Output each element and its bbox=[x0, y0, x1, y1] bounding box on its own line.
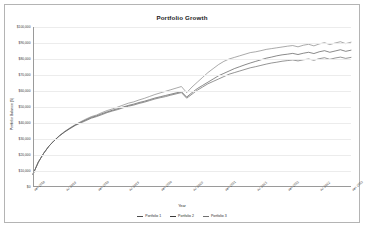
legend-item[interactable]: Portfolio 1 bbox=[137, 214, 161, 218]
chart-legend: Portfolio 1Portfolio 2Portfolio 3 bbox=[5, 214, 359, 218]
legend-item[interactable]: Portfolio 3 bbox=[203, 214, 227, 218]
gridline bbox=[33, 171, 351, 172]
legend-item[interactable]: Portfolio 2 bbox=[170, 214, 194, 218]
chart-frame: Portfolio Growth Portfolio Balance ($) $… bbox=[4, 4, 360, 223]
x-axis-line bbox=[33, 186, 351, 187]
y-tick-label: $0 bbox=[27, 185, 31, 189]
gridline bbox=[33, 107, 351, 108]
x-tick-label: Jan 2023 bbox=[351, 180, 364, 192]
y-tick-label: $60,000 bbox=[19, 89, 31, 93]
gridline bbox=[33, 123, 351, 124]
y-axis-line bbox=[33, 27, 34, 187]
y-tick-label: $40,000 bbox=[19, 121, 31, 125]
plot-area: $0$10,000$20,000$30,000$40,000$50,000$60… bbox=[33, 27, 351, 187]
gridline bbox=[33, 75, 351, 76]
gridline bbox=[33, 27, 351, 28]
y-tick-label: $30,000 bbox=[19, 137, 31, 141]
gridlines bbox=[33, 27, 351, 187]
legend-label: Portfolio 3 bbox=[211, 214, 227, 218]
y-tick-label: $80,000 bbox=[19, 57, 31, 61]
y-axis-title: Portfolio Balance ($) bbox=[10, 97, 14, 130]
y-tick-label: $10,000 bbox=[19, 169, 31, 173]
legend-swatch-icon bbox=[203, 216, 209, 217]
y-tick-label: $50,000 bbox=[19, 105, 31, 109]
y-tick-label: $70,000 bbox=[19, 73, 31, 77]
gridline bbox=[33, 139, 351, 140]
y-tick-label: $90,000 bbox=[19, 41, 31, 45]
legend-swatch-icon bbox=[137, 216, 143, 217]
gridline bbox=[33, 59, 351, 60]
gridline bbox=[33, 91, 351, 92]
gridline bbox=[33, 155, 351, 156]
y-tick-label: $20,000 bbox=[19, 153, 31, 157]
y-tick-label: $100,000 bbox=[17, 25, 31, 29]
legend-label: Portfolio 2 bbox=[178, 214, 194, 218]
gridline bbox=[33, 43, 351, 44]
legend-label: Portfolio 1 bbox=[145, 214, 161, 218]
legend-swatch-icon bbox=[170, 216, 176, 217]
x-axis-title: Year bbox=[5, 204, 359, 208]
chart-title: Portfolio Growth bbox=[5, 14, 359, 21]
